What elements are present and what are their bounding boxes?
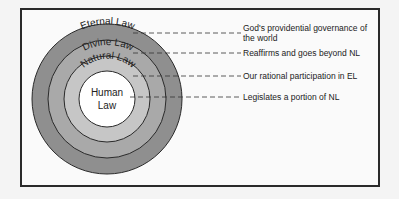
human-law-label-line2: Law <box>98 100 117 111</box>
eternal-law-description-line2: the world <box>243 33 367 43</box>
natural-law-description: Our rational participation in EL <box>243 71 357 81</box>
divine-law-description: Reaffirms and goes beyond NL <box>243 48 360 58</box>
human-law-description: Legislates a portion of NL <box>243 92 339 102</box>
ring-human-law <box>79 71 135 127</box>
human-law-label-line1: Human <box>91 87 123 98</box>
eternal-law-description: God's providential governance of the wor… <box>243 23 367 43</box>
eternal-law-description-line1: God's providential governance of <box>243 23 367 33</box>
